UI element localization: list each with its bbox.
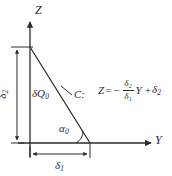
- equation-constant: δ2: [152, 84, 161, 97]
- curve-label-leader-line: [61, 86, 72, 95]
- dimension-label-delta1-subscript: 1: [60, 164, 64, 173]
- equation-numerator-subscript: 2: [129, 82, 132, 89]
- dimension-label-delta2-subscript: 2: [1, 90, 10, 94]
- equation-denominator-subscript: 1: [129, 95, 132, 102]
- equation-denominator: δ1: [124, 91, 132, 102]
- equation-constant-subscript: 2: [157, 88, 161, 97]
- region-label-delta-q0: δQ0: [32, 88, 49, 101]
- equation-minus-sign: −: [113, 85, 119, 96]
- curve-label-c: C:: [74, 89, 85, 100]
- equation-numerator-base: δ: [124, 78, 128, 88]
- dimension-label-delta2: δ2: [0, 90, 10, 99]
- region-label-subscript: 0: [45, 92, 49, 101]
- geometry-diagram: Z Y δQ0 C: α0 δ1 δ2 Z = − δ2 δ1 Y + δ2: [0, 0, 172, 176]
- angle-label-subscript: 0: [65, 127, 69, 136]
- equation-equals: =: [105, 85, 111, 96]
- equation-numerator: δ2: [124, 79, 132, 90]
- equation-denominator-base: δ: [124, 91, 128, 101]
- equation-fraction: δ2 δ1: [123, 79, 134, 102]
- angle-label-alpha0: α0: [59, 123, 69, 136]
- z-axis-label: Z: [35, 4, 42, 16]
- region-label-base: δQ: [32, 87, 45, 99]
- equation-plus-sign: +: [145, 85, 151, 96]
- angle-label-base: α: [59, 122, 65, 134]
- equation-variable: Y: [136, 85, 142, 96]
- line-equation: Z = − δ2 δ1 Y + δ2: [98, 79, 161, 102]
- angle-arc-alpha0: [76, 131, 83, 143]
- y-axis-label: Y: [155, 134, 162, 146]
- dimension-label-delta1: δ1: [55, 160, 64, 173]
- equation-lhs: Z: [98, 85, 104, 96]
- dimension-label-delta2-base: δ: [0, 94, 8, 99]
